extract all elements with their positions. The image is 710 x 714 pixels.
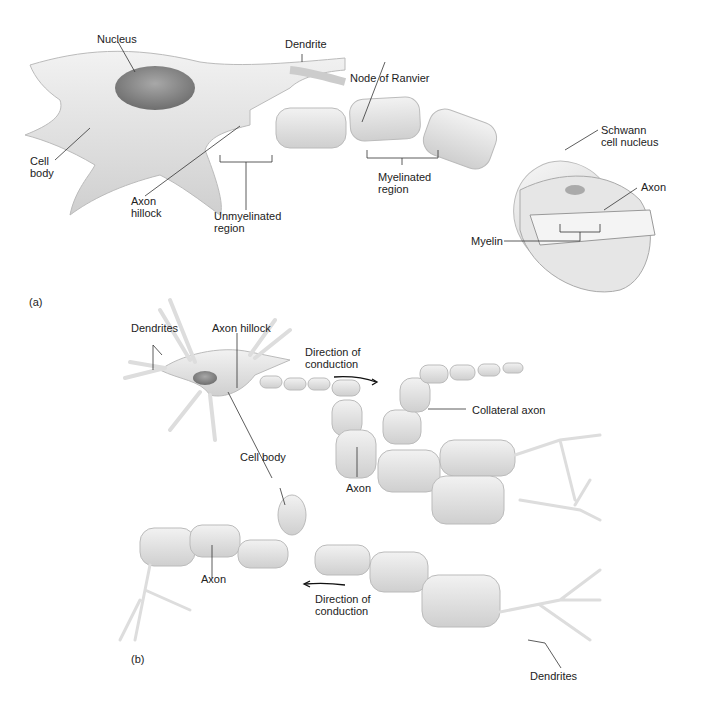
label-node-of-ranvier: Node of Ranvier (350, 72, 430, 84)
label-dendrite: Dendrite (285, 38, 327, 50)
label-axon-a: Axon (641, 181, 666, 193)
label-nucleus: Nucleus (97, 33, 137, 45)
nucleus-shape (115, 66, 195, 110)
panel-a-tag: (a) (29, 296, 42, 308)
label-dendrites-bottom: Dendrites (530, 670, 577, 682)
label-cell-body: Cell body (30, 155, 54, 179)
label-collateral-axon: Collateral axon (472, 404, 545, 416)
label-axon-hillock: Axon hillock (131, 195, 162, 219)
panel-b-tag: (b) (131, 653, 144, 665)
label-axon-mid: Axon (346, 482, 371, 494)
label-axon-hillock-b: Axon hillock (212, 322, 271, 334)
label-axon-bottom: Axon (201, 573, 226, 585)
label-myelinated-region: Myelinated region (378, 171, 431, 195)
panel-a-neuron (25, 42, 655, 292)
label-myelin: Myelin (471, 235, 503, 247)
label-schwann-cell-nucleus: Schwann cell nucleus (601, 124, 658, 148)
label-direction-bottom: Direction of conduction (315, 593, 371, 617)
label-direction-top: Direction of conduction (305, 346, 361, 370)
label-dendrites-top: Dendrites (131, 322, 178, 334)
label-cell-body-b: Cell body (240, 451, 286, 463)
label-unmyelinated-region: Unmyelinated region (214, 210, 281, 234)
